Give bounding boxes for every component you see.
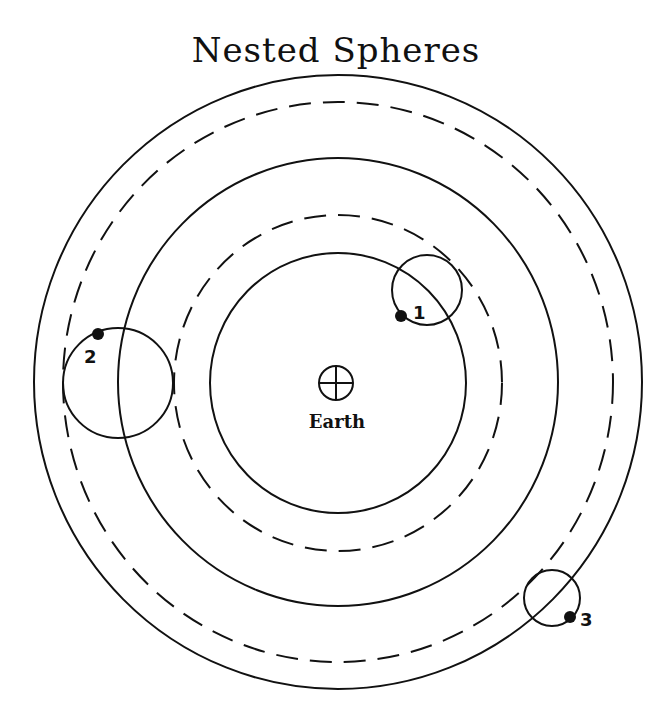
planet-1-dot-icon <box>395 310 407 322</box>
earth-icon <box>319 366 353 400</box>
planet-2-label: 2 <box>84 346 97 367</box>
planet-3-label: 3 <box>580 609 593 630</box>
planet-1-label: 1 <box>413 302 426 323</box>
planet-3-dot-icon <box>564 611 576 623</box>
nested-spheres-diagram: Nested Spheres Earth 1 2 3 <box>0 0 671 724</box>
diagram-title: Nested Spheres <box>192 30 481 70</box>
planet-2-dot-icon <box>92 328 104 340</box>
earth-label: Earth <box>309 411 365 432</box>
